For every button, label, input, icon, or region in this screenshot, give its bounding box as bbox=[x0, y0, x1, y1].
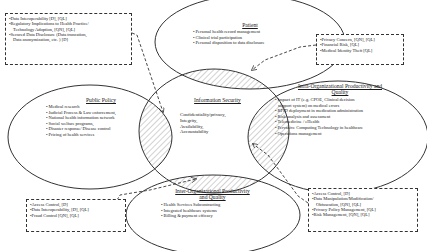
patient-items: Personal health record management Clinic… bbox=[193, 29, 265, 46]
box-line: •Risk Management, [QN], [QL] bbox=[312, 212, 414, 217]
intra-org-title-line2: Quality bbox=[278, 89, 402, 95]
connector-top-right bbox=[252, 45, 316, 70]
bottom-right-concern-box: •Access Control, [D] •Data Manipulation/… bbox=[308, 188, 418, 232]
intra-org-title: Intra-Organizational Productivity and Qu… bbox=[278, 83, 402, 96]
inter-org-title-line2: and Quality bbox=[160, 194, 265, 200]
information-security-properties: Confidentiality/privacy, Integrity, Avai… bbox=[180, 112, 226, 135]
list-item: Personal disposition to data disclosure bbox=[193, 40, 265, 46]
patient-title: Patient bbox=[225, 22, 275, 28]
list-item: Health Services Subcontracting bbox=[161, 202, 220, 208]
bottom-left-concern-box: •Access Control, [D] •Data Interoperabil… bbox=[26, 199, 126, 232]
intra-org-items: Impact of IT (e.g. CPOE, Clinical decisi… bbox=[275, 97, 363, 136]
inter-org-items: Health Services Subcontracting Integrate… bbox=[161, 202, 220, 219]
box-line: •Medical Identity Theft [QL] bbox=[320, 48, 400, 53]
list-item: Operations management bbox=[275, 131, 363, 137]
property-line: Confidentiality/privacy, bbox=[180, 112, 226, 118]
information-security-title: Information Security bbox=[180, 97, 255, 103]
property-line: Accountability bbox=[180, 129, 226, 135]
public-policy-items: Medical research Judicial Process & Law … bbox=[46, 104, 116, 138]
top-left-concern-box: •Data Interoperability [D], [QL] •Regula… bbox=[5, 13, 132, 65]
list-item: Pricing of health services bbox=[46, 132, 116, 138]
continuation-text: support system) on medical errors bbox=[278, 103, 339, 108]
list-item: RFID deployment in medication administra… bbox=[275, 108, 363, 114]
public-policy-title: Public Policy bbox=[75, 97, 127, 103]
information-security-diagram: Patient Personal health record managemen… bbox=[0, 0, 427, 251]
list-item: National health information network bbox=[46, 115, 116, 121]
top-right-concern-box: •Privacy Concern, [QN], [QL] •Financial … bbox=[316, 34, 404, 65]
box-line: Data anonymization, etc. ) [D] bbox=[9, 37, 128, 42]
list-item: Billing & payment efficacy bbox=[161, 213, 220, 219]
inter-org-title: Inter-Organizational Productivity and Qu… bbox=[160, 188, 265, 201]
list-item: Pervasive Computing Technology in health… bbox=[275, 125, 363, 131]
list-item: Personal health record management bbox=[193, 29, 265, 35]
box-line: •Fraud Control [QN], [QL] bbox=[30, 213, 122, 218]
